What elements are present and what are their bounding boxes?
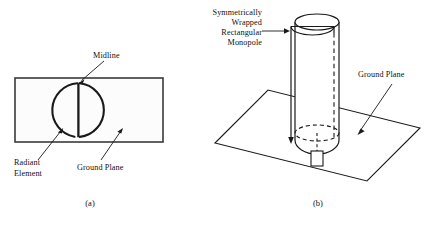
panel-b-monopole-label-line1: Symmetrically [186, 8, 262, 18]
panel-a-ground-plane-rect [15, 78, 163, 142]
panel-b-feed-pin [311, 151, 323, 166]
panel-b-monopole-leader [262, 28, 290, 33]
panel-a-group [15, 61, 163, 160]
panel-a-caption: (a) [60, 198, 120, 208]
panel-b-ground-plane-label: Ground Plane [358, 70, 404, 80]
panel-b-cylinder-top-ellipse [295, 14, 339, 30]
panel-b-caption: (b) [288, 198, 348, 208]
panel-b-monopole-label-line4: Monopole [186, 38, 262, 48]
panel-b-monopole-label-line2: Wrapped [186, 18, 262, 28]
figure-root: Midline Radiant Element Ground Plane (a)… [0, 0, 430, 228]
panel-a-ground-plane-label: Ground Plane [77, 163, 123, 173]
panel-b-monopole-label-line3: Rectangular [186, 28, 262, 38]
panel-a-radiant-element-label-line1: Radiant [14, 158, 40, 168]
panel-a-radiant-element-label-line2: Element [14, 169, 42, 179]
panel-a-midline-label: Midline [93, 51, 120, 61]
